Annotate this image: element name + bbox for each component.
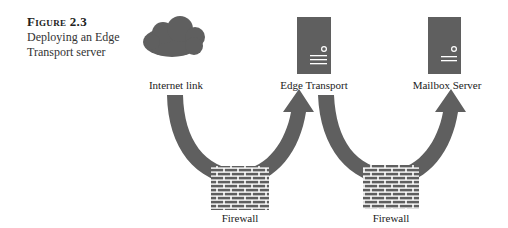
mailbox-server-label: Mailbox Server <box>413 79 482 91</box>
network-diagram <box>0 0 508 228</box>
mailbox-server-icon <box>428 17 461 74</box>
edge-transport-label: Edge Transport <box>280 79 348 91</box>
edge-server-icon <box>297 17 331 74</box>
internet-link-label: Internet link <box>149 79 203 91</box>
firewall-2-icon <box>363 165 419 209</box>
firewall-2-label: Firewall <box>373 212 410 224</box>
cloud-icon <box>143 16 205 57</box>
firewall-1-icon <box>211 166 269 210</box>
firewall-1-label: Firewall <box>222 212 259 224</box>
